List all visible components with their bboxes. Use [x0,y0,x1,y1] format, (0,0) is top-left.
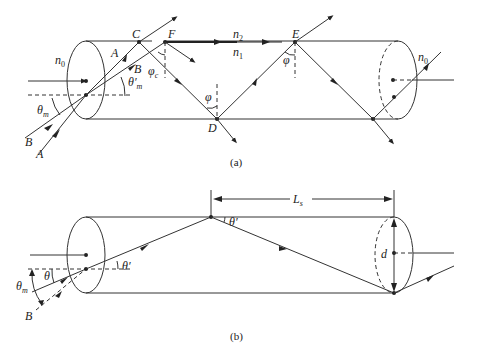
label-theta-m-prime: θ′m [128,75,143,91]
label-n0-right: n0 [418,50,428,66]
label-B-outside: B [25,135,33,149]
label-B-inside: B [134,62,142,76]
label-B-b: B [25,309,33,323]
label-D: D [207,121,217,135]
label-theta-m: θm [37,103,49,119]
figure-b: Ls d θ′ [16,190,454,343]
label-theta: θ [44,269,50,283]
label-n2: n2 [233,27,243,43]
label-theta-prime-top: θ′ [229,215,238,229]
caption-a: (a) [230,156,243,169]
label-d: d [381,247,388,261]
label-F: F [167,27,176,41]
label-phi-D: φ [205,90,212,104]
label-phi-E: φ [283,53,290,67]
label-A-inside: A [110,46,119,60]
optical-fiber-diagram: n0 C F E D A B B A n2 n1 φc φ φ θm θ′m n… [0,0,480,346]
label-theta-prime-left: θ′ [122,259,131,273]
figure-a: n0 C F E D A B B A n2 n1 φc φ φ θm θ′m n… [25,17,454,169]
label-phi-c: φc [148,64,159,80]
label-n0-left: n0 [55,53,65,69]
label-E: E [291,27,300,41]
label-Ls: Ls [292,192,303,208]
caption-b: (b) [230,330,243,343]
label-n1: n1 [233,45,243,61]
label-C: C [132,27,141,41]
label-A-outside: A [35,147,44,161]
label-theta-m-b: θm [16,279,28,295]
